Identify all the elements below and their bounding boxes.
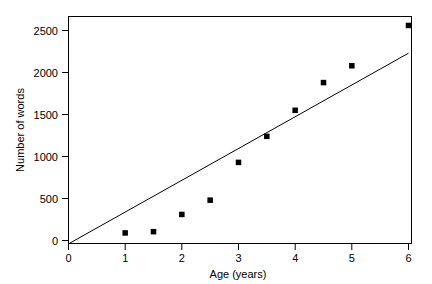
trend-line [69,53,409,244]
plot-frame [69,17,412,244]
x-axis-ticks [69,244,409,251]
y-tick-label-1000: 1000 [34,151,58,163]
data-point [179,212,185,218]
data-point [151,229,157,235]
x-tick-label-2: 2 [179,252,185,264]
y-tick-label-1500: 1500 [34,109,58,121]
x-tick-label-4: 4 [292,252,298,264]
scatter-chart-figure: 2500 2000 1500 1000 500 0 0 1 2 3 4 5 6 [0,0,432,284]
data-point [207,197,213,203]
y-axis-tick-labels: 2500 2000 1500 1000 500 0 [34,25,58,247]
data-point [292,108,298,114]
y-axis-title: Number of words [14,88,26,172]
x-axis-tick-labels: 0 1 2 3 4 5 6 [65,252,411,264]
x-tick-label-0: 0 [65,252,71,264]
data-point [349,63,355,69]
y-tick-label-0: 0 [52,235,58,247]
y-axis-ticks [62,31,69,241]
trend-line-group [69,53,409,244]
data-points-group [122,23,411,236]
y-tick-label-500: 500 [40,193,58,205]
data-point [321,80,327,86]
x-axis-title: Age (years) [210,268,267,280]
x-tick-label-1: 1 [122,252,128,264]
y-tick-label-2500: 2500 [34,25,58,37]
plot-canvas: 2500 2000 1500 1000 500 0 0 1 2 3 4 5 6 [0,0,432,284]
data-point [406,23,412,29]
x-tick-label-5: 5 [349,252,355,264]
x-tick-label-6: 6 [405,252,411,264]
data-point [122,230,128,236]
data-point [264,134,270,140]
data-point [236,160,242,166]
x-tick-label-3: 3 [235,252,241,264]
y-tick-label-2000: 2000 [34,67,58,79]
